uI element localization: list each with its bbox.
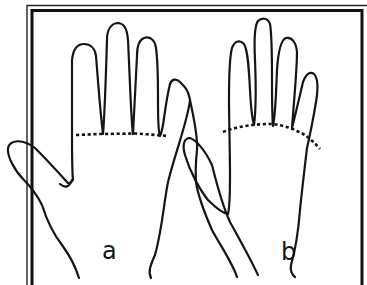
hands-diagram: a b	[0, 0, 367, 285]
hand-b-label: b	[281, 238, 296, 266]
hand-b-finger-base-line	[223, 124, 320, 149]
hand-b-outline	[184, 19, 318, 277]
hand-b: b	[184, 19, 320, 277]
hand-a-label: a	[102, 237, 117, 265]
hand-a-finger-base-line	[76, 134, 168, 137]
hand-a-right-edge	[150, 100, 190, 278]
